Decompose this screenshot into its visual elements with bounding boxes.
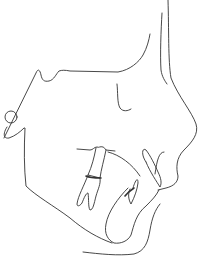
tracing-svg — [0, 0, 205, 258]
soft-tissue-chin — [83, 204, 160, 255]
cranial-base — [4, 34, 150, 138]
upper-incisor — [143, 149, 161, 187]
orbit-floor — [117, 84, 131, 111]
soft-tissue-profile — [158, 0, 197, 190]
symphysis — [105, 188, 159, 243]
ear-rod-circle — [5, 111, 17, 123]
lower-molar — [77, 175, 100, 210]
mandible-ramus — [4, 127, 112, 243]
upper-lip-line — [155, 152, 164, 174]
cephalometric-tracing-canvas — [0, 0, 205, 258]
nasal-bone-line — [161, 13, 167, 84]
palatal-line — [108, 152, 140, 176]
upper-molar-crown — [88, 148, 106, 178]
